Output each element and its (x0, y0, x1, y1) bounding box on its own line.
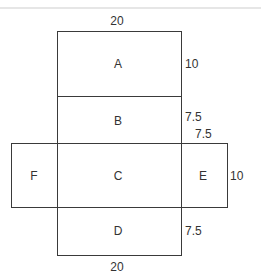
top-divider-line (0, 7, 261, 9)
dimension-e-height: 10 (230, 170, 243, 182)
dimension-bottom-width: 20 (110, 261, 123, 273)
face-e-label: E (199, 170, 207, 182)
face-d-label: D (114, 225, 123, 237)
dimension-d-height: 7.5 (185, 225, 202, 237)
dimension-a-height: 10 (185, 58, 198, 70)
face-c-label: C (114, 170, 123, 182)
dimension-b-height: 7.5 (185, 111, 202, 123)
dimension-e-width: 7.5 (195, 128, 212, 140)
face-b-label: B (114, 115, 122, 127)
dimension-top-width: 20 (110, 15, 123, 27)
face-f-label: F (30, 170, 37, 182)
face-a-label: A (114, 58, 122, 70)
